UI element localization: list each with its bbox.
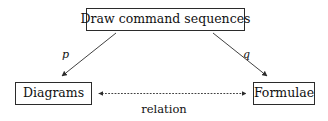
node-diagrams: Diagrams bbox=[15, 82, 92, 105]
edge-label-q: q bbox=[243, 49, 250, 60]
node-formulae: Formulae bbox=[253, 82, 315, 105]
edge-label-relation: relation bbox=[0, 104, 328, 116]
node-draw-command-sequences: Draw command sequences bbox=[86, 8, 245, 31]
node-label: Formulae bbox=[254, 87, 314, 100]
edge-label-p: p bbox=[62, 49, 69, 60]
node-label: Diagrams bbox=[23, 87, 84, 100]
diagram-canvas: Draw command sequences Diagrams Formulae… bbox=[0, 0, 328, 121]
node-label: Draw command sequences bbox=[81, 13, 251, 26]
edge-q-line bbox=[213, 33, 267, 76]
edge-p-line bbox=[62, 33, 116, 76]
